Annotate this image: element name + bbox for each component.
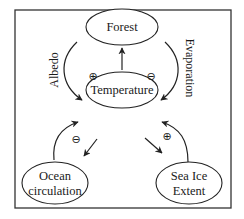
temperature-label: Temperature <box>91 83 154 97</box>
seaice-sign-positive: ⊕ <box>162 130 171 143</box>
forest-label: Forest <box>106 20 138 34</box>
albedo-label: Albedo <box>47 52 61 87</box>
seaice-label-line1: Sea Ice <box>171 169 208 183</box>
ocean-label-line1: Ocean <box>39 169 72 183</box>
node-sea-ice-extent: Sea Ice Extent <box>156 162 222 204</box>
feedback-diagram: Forest Temperature Ocean circulation Sea… <box>0 0 244 219</box>
arrow-temperature-to-ocean <box>84 139 97 156</box>
arrow-albedo <box>64 42 82 100</box>
evaporation-label: Evaporation <box>183 39 197 98</box>
seaice-label-line2: Extent <box>173 184 206 198</box>
node-ocean-circulation: Ocean circulation <box>22 162 88 204</box>
ocean-sign-negative: ⊖ <box>71 133 80 146</box>
arrow-evaporation <box>161 42 178 100</box>
node-forest: Forest <box>86 9 158 45</box>
arrow-temperature-to-seaice <box>145 138 162 153</box>
evaporation-sign-negative: ⊖ <box>146 70 155 83</box>
ocean-label-line2: circulation <box>28 184 82 198</box>
albedo-sign-positive: ⊕ <box>88 70 97 83</box>
